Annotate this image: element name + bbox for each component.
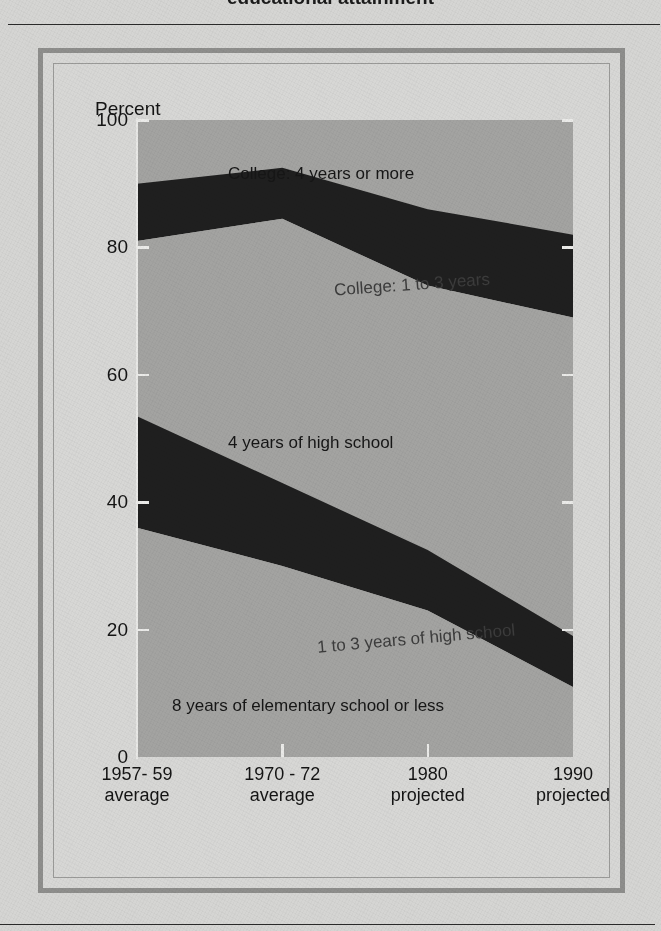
x-axis-tick-label-line1: 1957- 59 [62,764,212,785]
x-axis-tick-label-line2: average [207,785,357,806]
y-axis-tick [137,374,149,377]
x-axis-tick-label-line1: 1990 [498,764,648,785]
x-axis-tick-label-line1: 1970 - 72 [207,764,357,785]
x-axis-tick-label: 1980projected [353,764,503,806]
y-axis-tick-right [562,119,573,122]
series-label: 8 years of elementary school or less [172,697,444,714]
y-axis-tick-label: 100 [68,110,128,129]
y-axis-tick [137,501,149,504]
x-axis-tick-label: 1957- 59average [62,764,212,806]
y-axis-tick-label: 60 [68,365,128,384]
series-label: 4 years of high school [228,434,393,451]
y-axis-tick [137,119,149,122]
x-axis-tick-label-line1: 1980 [353,764,503,785]
y-axis-tick-right [562,374,573,377]
x-axis-tick-label-line2: projected [498,785,648,806]
x-axis-tick-label: 1990projected [498,764,648,806]
x-axis-tick [281,744,284,757]
cut-off-heading: educational attainment [0,0,661,7]
y-axis-tick-right [562,629,573,632]
y-axis-tick-right [562,501,573,504]
y-axis-tick-label: 40 [68,492,128,511]
x-axis-tick [427,744,430,757]
y-axis-tick [137,246,149,249]
y-axis-tick-label: 80 [68,237,128,256]
series-label: College: 4 years or more [228,165,414,182]
bottom-horizontal-rule [0,924,655,925]
x-axis-tick-label: 1970 - 72average [207,764,357,806]
y-axis-tick [137,629,149,632]
x-axis-tick-label-line2: average [62,785,212,806]
top-horizontal-rule [8,24,660,25]
y-axis-line [136,118,138,759]
x-axis-tick-label-line2: projected [353,785,503,806]
y-axis-tick-label: 20 [68,620,128,639]
y-axis-tick-right [562,246,573,249]
